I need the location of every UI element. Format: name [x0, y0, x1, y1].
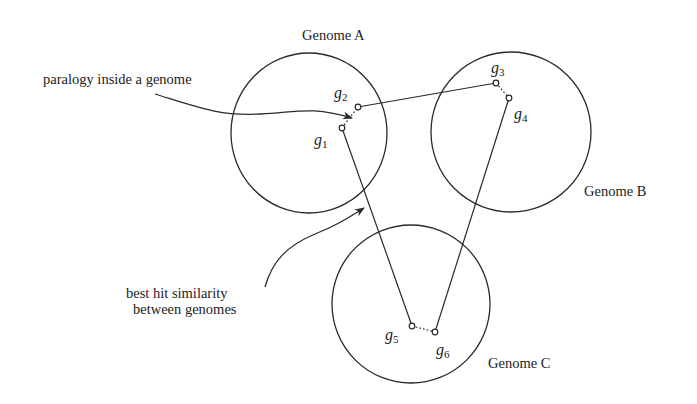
- genome-b-label: Genome B: [584, 183, 646, 199]
- gene-g2-node: [355, 104, 361, 110]
- gene-g1-label: g1: [314, 131, 328, 150]
- gene-g6-label: g6: [436, 341, 450, 360]
- genome-circles: [231, 52, 591, 383]
- gene-g4-label: g4: [514, 105, 528, 124]
- gene-g5-label: g5: [385, 326, 399, 345]
- gene-g4-node: [506, 95, 512, 101]
- gene-nodes: g1g2g3g4g5g6: [314, 59, 528, 360]
- best-hit-link-g4-g6: [435, 98, 509, 332]
- genome-b-circle: [431, 52, 591, 212]
- gene-g6-node: [432, 329, 438, 335]
- gene-g2-label: g2: [334, 84, 348, 103]
- genome-c-circle: [332, 225, 490, 383]
- gene-g5-node: [409, 323, 415, 329]
- paralogy-arrow: [155, 94, 352, 118]
- genome-c-label: Genome C: [488, 355, 550, 371]
- best-hit-arrow: [265, 208, 364, 287]
- genome-a-label: Genome A: [302, 27, 365, 43]
- gene-g3-node: [493, 80, 499, 86]
- best-hit-annotation-line2: between genomes: [133, 301, 237, 317]
- paralogy-link-g5-g6: [412, 326, 435, 332]
- paralogy-annotation: paralogy inside a genome: [43, 71, 192, 87]
- gene-g3-label: g3: [491, 59, 505, 78]
- best-hit-link-g1-g5: [342, 128, 412, 326]
- ortholog-paralog-diagram: g1g2g3g4g5g6 Genome AGenome BGenome C pa…: [0, 0, 697, 404]
- best-hit-annotation-line1: best hit similarity: [126, 285, 228, 301]
- gene-g1-node: [339, 125, 345, 131]
- best-hit-link-g2-g3: [358, 83, 496, 107]
